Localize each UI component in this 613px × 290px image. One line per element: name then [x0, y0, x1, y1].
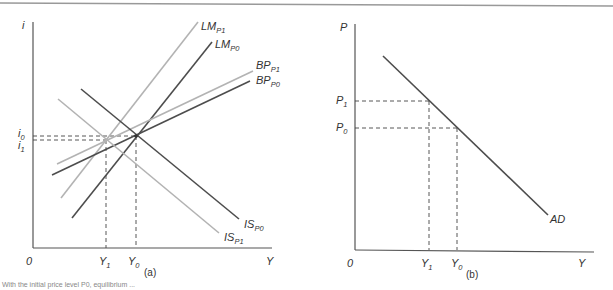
panel-b-guides [355, 101, 457, 250]
figure-canvas: i i0 i1 LMP1 LMP0 BPP1 BPP0 ISP0 ISP1 0 … [0, 0, 613, 290]
ad-label: AD [549, 213, 565, 225]
tick-y0-b: Y0 [451, 257, 463, 272]
panel-a-y-label: i [22, 19, 25, 31]
ad-curve [383, 56, 548, 215]
is-p1-label: ISP1 [224, 231, 244, 246]
panel-b-x-label: Y [578, 257, 586, 269]
lm-p0-label: LMP0 [215, 38, 240, 53]
panel-a-caption: (a) [144, 267, 156, 278]
panel-b-x-axis [355, 250, 594, 252]
panel-b-origin: 0 [347, 257, 354, 269]
top-rule [0, 3, 613, 6]
equilibrium-point-0 [134, 134, 138, 138]
panel-a-origin: 0 [26, 255, 33, 267]
bp-p1-label: BPP1 [256, 59, 280, 74]
tick-y1-b: Y1 [421, 257, 433, 272]
is-p1-curve [58, 99, 219, 233]
panel-a-guides [33, 136, 136, 248]
is-p0-label: ISP0 [244, 218, 264, 233]
lm-p1-label: LMP1 [201, 20, 225, 35]
panel-a-x-label: Y [266, 255, 274, 267]
panel-b: P P1 P0 AD 0 Y1 Y0 Y (b) [336, 21, 594, 280]
tick-y0-a: Y0 [128, 255, 140, 270]
figure-caption-partial: With the initial price level P0, equilib… [2, 281, 135, 288]
lm-p0-curve [72, 42, 212, 218]
lm-p1-curve [61, 22, 198, 198]
tick-y1-a: Y1 [99, 255, 111, 270]
panel-a: i i0 i1 LMP1 LMP0 BPP1 BPP0 ISP0 ISP1 0 … [18, 19, 281, 278]
panel-b-caption: (b) [466, 269, 478, 280]
tick-p1: P1 [336, 94, 348, 109]
tick-p0: P0 [336, 121, 348, 136]
panel-b-y-label: P [340, 21, 348, 33]
bp-p0-label: BPP0 [256, 74, 281, 89]
bp-p0-curve [52, 81, 250, 175]
